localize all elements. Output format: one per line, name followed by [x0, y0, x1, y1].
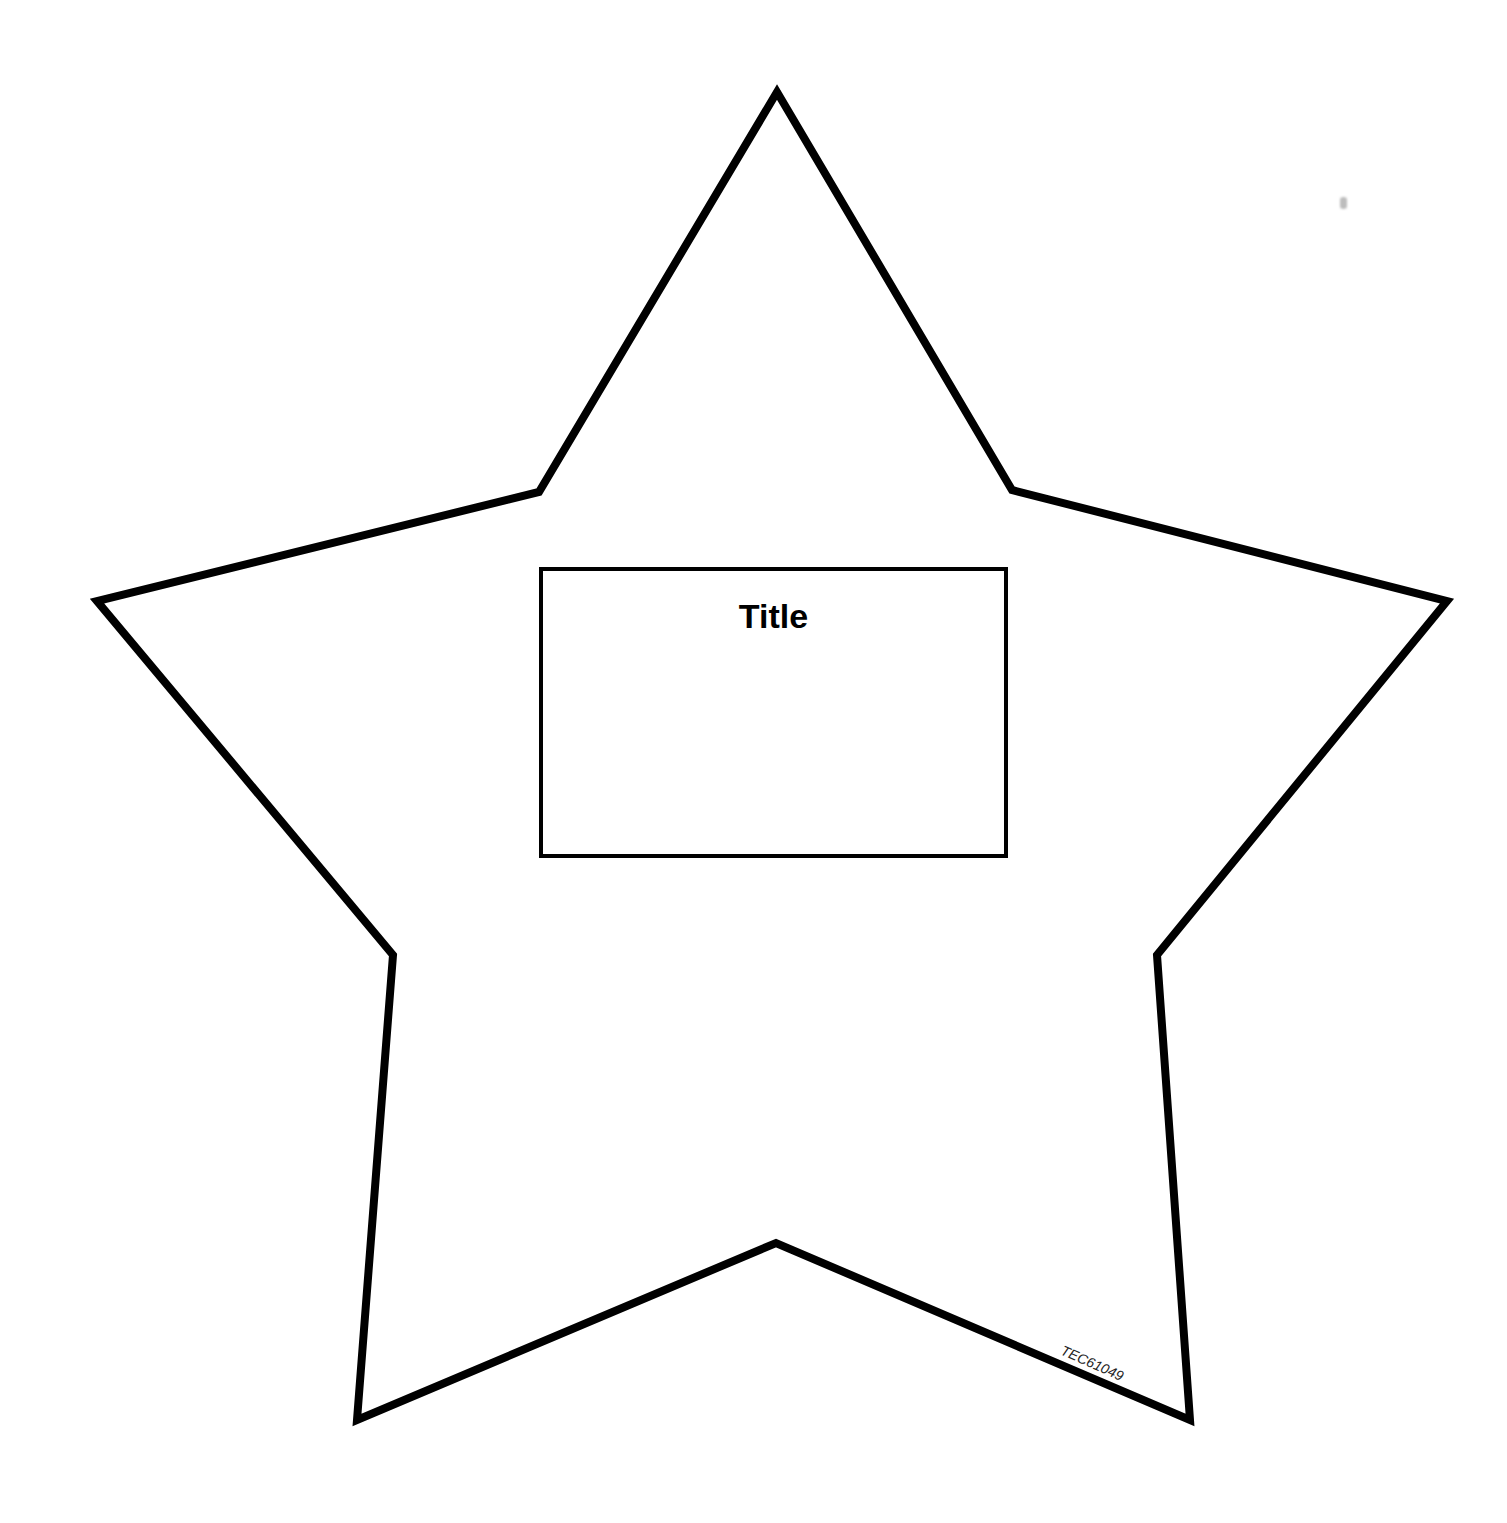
title-label: Title	[543, 599, 1004, 633]
scan-speck	[1340, 197, 1347, 209]
title-box[interactable]: Title	[539, 567, 1008, 858]
title-writing-area[interactable]	[553, 651, 994, 844]
